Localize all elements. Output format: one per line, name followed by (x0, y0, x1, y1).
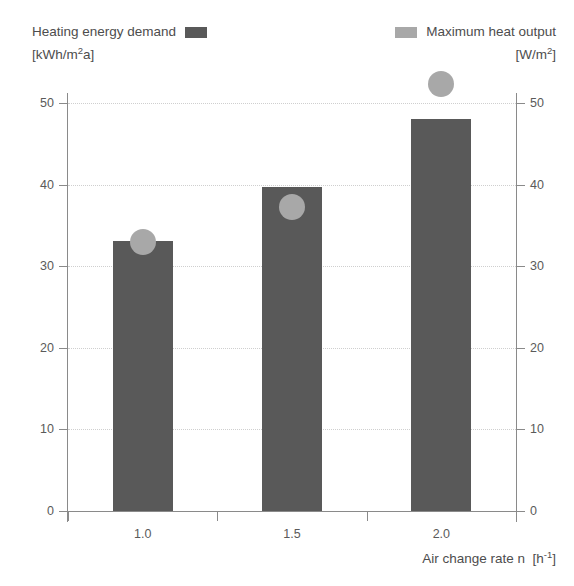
legend-left-label: Heating energy demand (32, 22, 176, 42)
y-tick-mark-right (517, 511, 525, 512)
y-tick-mark-left (59, 511, 67, 512)
y-tick-label-left: 10 (14, 423, 54, 436)
y-tick-mark-right (517, 266, 525, 267)
bar (411, 119, 471, 511)
y-tick-mark-right (517, 103, 525, 104)
y-tick-label-right: 20 (530, 342, 570, 355)
bar (262, 187, 322, 511)
legend-right-row: Maximum heat output (395, 22, 556, 42)
bar (113, 241, 173, 511)
legend-right-label: Maximum heat output (426, 22, 556, 42)
y-tick-mark-right (517, 348, 525, 349)
y-tick-mark-right (517, 185, 525, 186)
y-tick-mark-left (59, 185, 67, 186)
y-tick-label-right: 10 (530, 423, 570, 436)
x-axis-title: Air change rate n [h-1] (422, 551, 556, 566)
y-tick-label-left: 50 (14, 97, 54, 110)
scatter-point (428, 71, 454, 97)
legend-left-unit-prefix: [kWh/m (32, 47, 78, 62)
chart-legend: Heating energy demand [kWh/m2a] Maximum … (0, 0, 574, 80)
legend-right-unit-prefix: [W/m (515, 47, 547, 62)
legend-left-unit: [kWh/m2a] (32, 45, 207, 65)
x-tick-label: 1.0 (113, 527, 173, 541)
y-tick-label-left: 0 (14, 505, 54, 518)
y-tick-mark-right (517, 429, 525, 430)
x-tick-label: 1.5 (262, 527, 322, 541)
y-tick-mark-left (59, 348, 67, 349)
x-axis-title-unit-prefix: [h (533, 551, 544, 566)
legend-left-row: Heating energy demand (32, 22, 207, 42)
legend-left-unit-suffix: a] (83, 47, 94, 62)
legend-entry-maximum-heat-output: Maximum heat output [W/m2] (395, 22, 556, 65)
gridline (68, 511, 516, 512)
y-axis-right-line (516, 93, 517, 522)
legend-right-unit-suffix: ] (552, 47, 556, 62)
gridline (68, 103, 516, 104)
y-tick-label-left: 20 (14, 342, 54, 355)
y-tick-label-right: 40 (530, 179, 570, 192)
x-tick-mark (68, 511, 69, 521)
scatter-point (130, 229, 156, 255)
x-tick-mark (217, 511, 218, 521)
x-axis-title-unit-sup: -1 (544, 549, 552, 560)
scatter-point (279, 194, 305, 220)
x-tick-label: 2.0 (411, 527, 471, 541)
y-tick-label-right: 30 (530, 260, 570, 273)
x-tick-mark (367, 511, 368, 521)
y-tick-label-left: 30 (14, 260, 54, 273)
dot-swatch-icon (395, 27, 417, 38)
y-tick-mark-left (59, 266, 67, 267)
x-axis-title-unit-suffix: ] (552, 551, 556, 566)
y-tick-mark-left (59, 103, 67, 104)
y-tick-mark-left (59, 429, 67, 430)
bar-swatch-icon (185, 27, 207, 38)
y-tick-label-right: 50 (530, 97, 570, 110)
x-axis-title-main: Air change rate n (422, 551, 525, 566)
y-tick-label-right: 0 (530, 505, 570, 518)
plot-area: 01020304050 01020304050 1.01.52.0 (68, 103, 516, 511)
legend-entry-heating-energy-demand: Heating energy demand [kWh/m2a] (32, 22, 207, 65)
y-axis-left-line (67, 93, 68, 522)
y-tick-label-left: 40 (14, 179, 54, 192)
legend-right-unit: [W/m2] (395, 45, 556, 65)
